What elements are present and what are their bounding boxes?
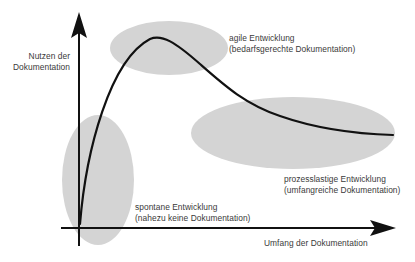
y-axis-label-line2: Dokumentation <box>0 62 70 73</box>
region-title-spontaneous: spontane Entwicklung <box>135 202 250 213</box>
region-subtitle-spontaneous: (nahezu keine Dokumentation) <box>135 213 250 224</box>
region-label-process-heavy: prozesslastige Entwicklung (umfangreiche… <box>284 174 400 195</box>
x-axis-label-text: Umfang der Dokumentation <box>264 238 368 249</box>
region-subtitle-agile: (bedarfsgerechte Dokumentation) <box>229 44 355 55</box>
region-subtitle-process-heavy: (umfangreiche Dokumentation) <box>284 185 400 196</box>
y-axis-label: Nutzen der Dokumentation <box>0 51 70 72</box>
region-title-agile: agile Entwicklung <box>229 33 355 44</box>
region-ellipse-agile <box>110 21 228 75</box>
region-ellipse-spontaneous <box>62 115 134 245</box>
region-title-process-heavy: prozesslastige Entwicklung <box>284 174 400 185</box>
y-axis-label-line1: Nutzen der <box>0 51 70 62</box>
region-label-spontaneous: spontane Entwicklung (nahezu keine Dokum… <box>135 202 250 223</box>
region-label-agile: agile Entwicklung (bedarfsgerechte Dokum… <box>229 33 355 54</box>
x-axis-label: Umfang der Dokumentation <box>264 238 368 249</box>
documentation-value-diagram: Nutzen der Dokumentation agile Entwicklu… <box>0 0 415 262</box>
